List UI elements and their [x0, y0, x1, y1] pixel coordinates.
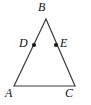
geometry-figure: B D E A C — [0, 0, 91, 105]
side-AB-line — [14, 19, 46, 86]
point-D-marker — [32, 43, 36, 47]
point-E-marker — [54, 43, 58, 47]
triangle-sides — [14, 19, 75, 86]
vertex-label-B: B — [38, 1, 45, 13]
vertex-label-C: C — [65, 87, 73, 99]
point-label-E: E — [60, 37, 67, 49]
vertex-label-A: A — [5, 87, 12, 99]
point-label-D: D — [19, 37, 28, 49]
side-BC-line — [46, 19, 75, 86]
point-markers — [32, 43, 58, 47]
triangle-diagram-svg — [0, 0, 91, 105]
